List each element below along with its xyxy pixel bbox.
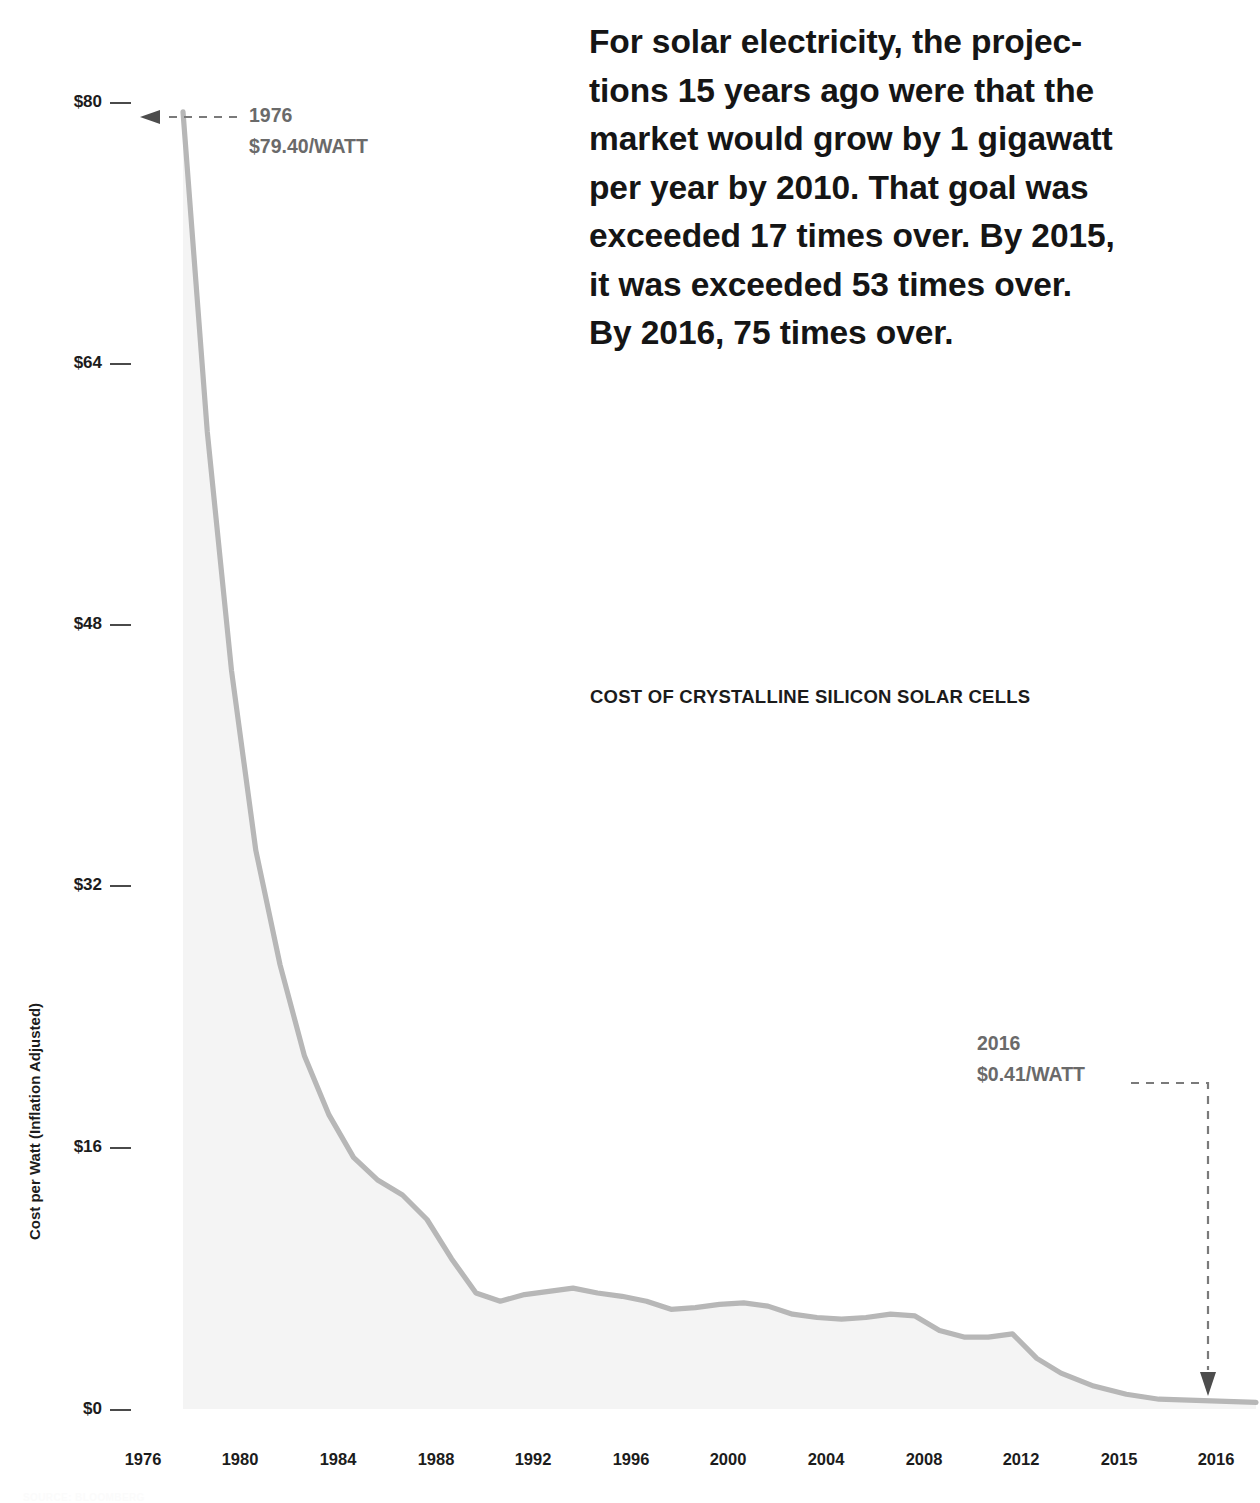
leader-1976 bbox=[140, 110, 237, 124]
y-axis-label-64: $64 bbox=[40, 353, 102, 373]
x-axis-label-2016: 2016 bbox=[1176, 1450, 1256, 1469]
x-axis-label-1980: 1980 bbox=[200, 1450, 280, 1469]
cost-per-watt-series bbox=[183, 112, 1256, 1409]
x-axis-label-1976: 1976 bbox=[103, 1450, 183, 1469]
x-axis-label-2012: 2012 bbox=[981, 1450, 1061, 1469]
y-tick-mark bbox=[110, 885, 131, 887]
x-axis-label-2000: 2000 bbox=[688, 1450, 768, 1469]
y-axis-label-48: $48 bbox=[40, 614, 102, 634]
x-axis-label-2015: 2015 bbox=[1079, 1450, 1159, 1469]
y-axis-title: Cost per Watt (Inflation Adjusted) bbox=[26, 987, 43, 1257]
annotation-start-value: $79.40/WATT bbox=[249, 131, 368, 162]
area-chart-plot bbox=[0, 0, 1260, 1503]
annotation-start-year: 1976 bbox=[249, 100, 368, 131]
leader-2016 bbox=[1131, 1083, 1216, 1396]
source-note: SOURCE: BLOOMBERG bbox=[23, 1492, 145, 1503]
y-axis-label-16: $16 bbox=[40, 1137, 102, 1157]
annotation-end-year: 2016 bbox=[977, 1028, 1085, 1059]
x-axis-label-2004: 2004 bbox=[786, 1450, 866, 1469]
annotation-end: 2016 $0.41/WATT bbox=[977, 1028, 1085, 1090]
y-axis-label-32: $32 bbox=[40, 875, 102, 895]
chart-canvas: For solar electricity, the projec- tions… bbox=[0, 0, 1260, 1503]
x-axis-label-1992: 1992 bbox=[493, 1450, 573, 1469]
arrow-head-2016 bbox=[1200, 1372, 1216, 1396]
y-tick-mark bbox=[110, 1409, 131, 1411]
y-tick-mark bbox=[110, 1147, 131, 1149]
x-axis-label-1984: 1984 bbox=[298, 1450, 378, 1469]
y-axis-label-0: $0 bbox=[40, 1399, 102, 1419]
y-axis-label-80: $80 bbox=[40, 92, 102, 112]
x-axis-label-2008: 2008 bbox=[884, 1450, 964, 1469]
arrow-head-1976 bbox=[140, 110, 160, 124]
annotation-start: 1976 $79.40/WATT bbox=[249, 100, 368, 162]
y-tick-mark bbox=[110, 624, 131, 626]
leader-line-2016 bbox=[1131, 1083, 1208, 1370]
annotation-end-value: $0.41/WATT bbox=[977, 1059, 1085, 1090]
y-tick-mark bbox=[110, 363, 131, 365]
area-fill bbox=[183, 112, 1256, 1409]
x-axis-label-1988: 1988 bbox=[396, 1450, 476, 1469]
x-axis-label-1996: 1996 bbox=[591, 1450, 671, 1469]
y-tick-mark bbox=[110, 102, 131, 104]
